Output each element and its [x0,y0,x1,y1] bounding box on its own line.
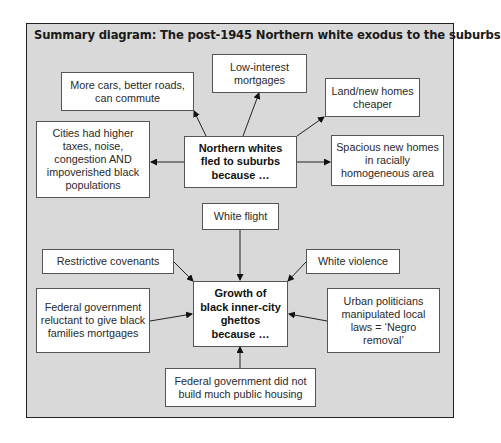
box-restrictive-covenants: Restrictive covenants [42,249,174,274]
box-growth-of-ghettos: Growth of black inner-city ghettos becau… [193,281,288,347]
box-more-cars: More cars, better roads, can commute [61,72,194,111]
box-northern-whites-fled: Northern whites fled to suburbs because … [184,136,297,188]
box-white-flight: White flight [202,203,279,230]
diagram-title: Summary diagram: The post-1945 Northern … [34,28,501,42]
box-low-interest-mortgages: Low-interest mortgages [212,54,307,93]
box-spacious-homes: Spacious new homes in racially homogeneo… [331,135,444,186]
box-land-cheaper: Land/new homes cheaper [325,78,420,117]
box-public-housing: Federal government did not build much pu… [165,368,316,407]
box-urban-politicians: Urban politicians manipulated local laws… [327,288,440,353]
box-federal-reluctant-mortgages: Federal government reluctant to give bla… [36,288,150,353]
box-white-violence: White violence [306,249,400,274]
box-cities-higher-taxes: Cities had higher taxes, noise, congesti… [36,121,150,198]
